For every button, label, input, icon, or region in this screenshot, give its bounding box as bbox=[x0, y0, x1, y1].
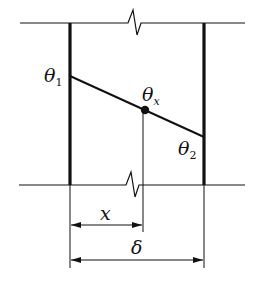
thetax-label: θx bbox=[142, 83, 160, 108]
delta-label: δ bbox=[131, 236, 142, 258]
x-label: x bbox=[100, 202, 111, 224]
bottom-boundary-line bbox=[19, 172, 245, 197]
theta1-label: θ1 bbox=[44, 64, 62, 89]
thetax-point bbox=[141, 106, 149, 114]
theta2-label: θ2 bbox=[178, 137, 196, 162]
temperature-profile-line bbox=[70, 76, 204, 137]
top-boundary-line bbox=[20, 10, 245, 35]
wall-temperature-diagram: θ1 θx θ2 x δ bbox=[0, 0, 257, 290]
